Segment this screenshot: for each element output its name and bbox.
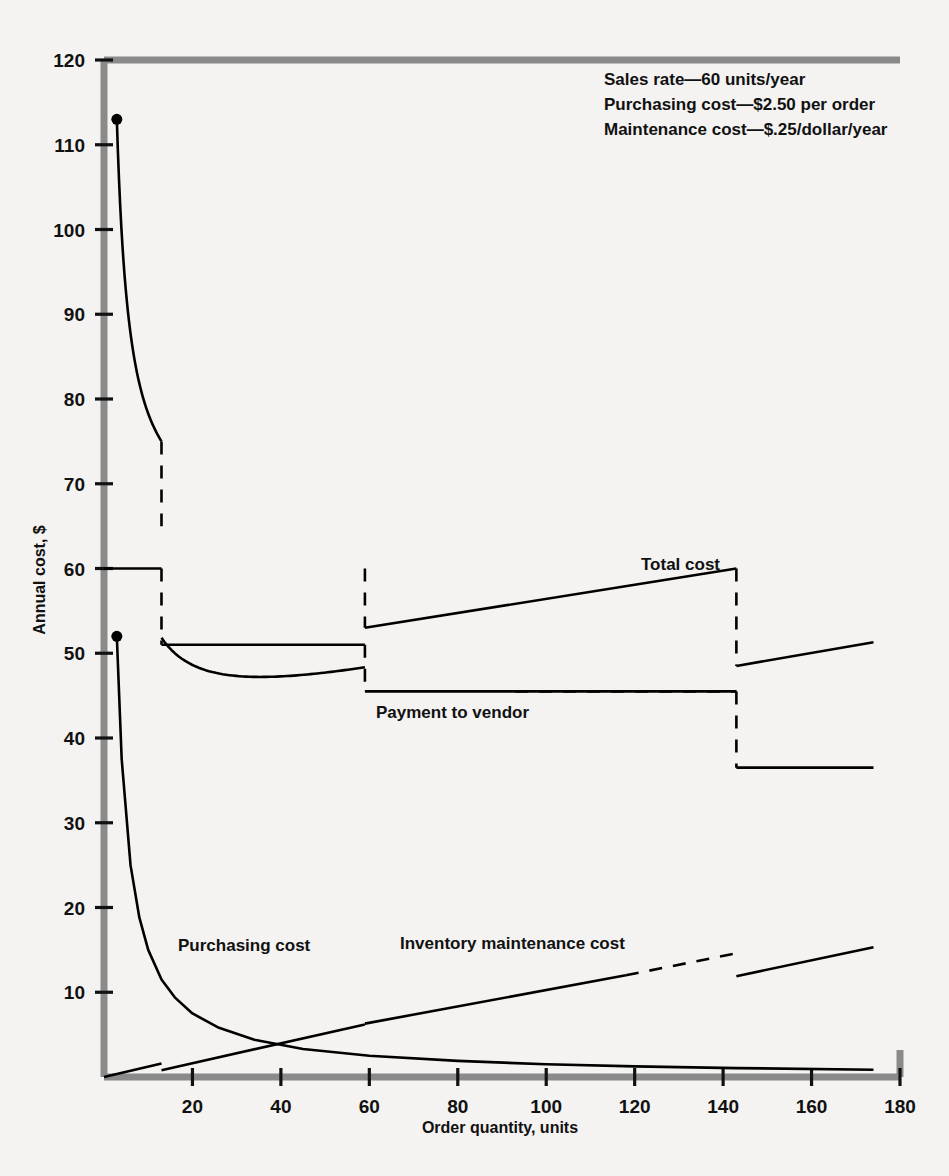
series-label-purchasing-cost: Purchasing cost — [178, 936, 311, 955]
series-label-payment-to-vendor: Payment to vendor — [376, 703, 529, 722]
y-tick-label-80: 80 — [64, 389, 85, 410]
note-purchasing-cost: Purchasing cost—$2.50 per order — [604, 95, 876, 114]
x-tick-label-140: 140 — [707, 1096, 739, 1117]
chart-background — [0, 0, 949, 1176]
y-tick-label-10: 10 — [64, 982, 85, 1003]
x-tick-label-100: 100 — [530, 1096, 562, 1117]
series-label-total-cost: Total cost — [641, 555, 720, 574]
y-tick-label-110: 110 — [54, 135, 85, 156]
series-label-inventory-maintenance-cost: Inventory maintenance cost — [400, 934, 625, 953]
y-tick-label-20: 20 — [64, 898, 85, 919]
chart-page: 102030405060708090100110120 204060801001… — [0, 0, 949, 1176]
x-tick-label-180: 180 — [884, 1096, 916, 1117]
y-tick-label-70: 70 — [64, 474, 85, 495]
note-sales-rate: Sales rate—60 units/year — [604, 70, 806, 89]
total-cost-start-point — [111, 114, 122, 125]
y-tick-label-40: 40 — [64, 728, 85, 749]
y-tick-label-120: 120 — [53, 50, 85, 71]
note-maintenance-cost: Maintenance cost—$.25/dollar/year — [604, 120, 888, 139]
y-tick-label-60: 60 — [64, 559, 85, 580]
y-tick-label-50: 50 — [64, 643, 85, 664]
y-tick-label-30: 30 — [64, 813, 85, 834]
x-tick-label-120: 120 — [619, 1096, 651, 1117]
x-axis-title: Order quantity, units — [422, 1119, 578, 1136]
x-tick-label-160: 160 — [796, 1096, 828, 1117]
annual-cost-vs-order-quantity-chart: 102030405060708090100110120 204060801001… — [0, 0, 949, 1176]
y-tick-label-100: 100 — [53, 220, 85, 241]
x-tick-label-20: 20 — [182, 1096, 203, 1117]
y-tick-label-90: 90 — [64, 304, 85, 325]
purchasing-cost-start-point — [111, 631, 122, 642]
x-tick-label-60: 60 — [359, 1096, 380, 1117]
x-tick-label-40: 40 — [270, 1096, 291, 1117]
x-tick-label-80: 80 — [447, 1096, 468, 1117]
y-axis-title: Annual cost, $ — [31, 525, 48, 634]
